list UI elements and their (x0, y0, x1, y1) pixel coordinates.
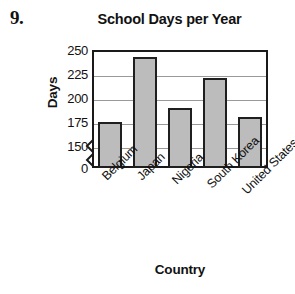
y-tick-label: 225 (44, 68, 88, 81)
y-tick-label: 150 (44, 140, 88, 153)
bar (98, 122, 122, 168)
bars-layer (92, 50, 268, 168)
problem-number: 9. (10, 8, 23, 27)
y-tick-label: 0 (44, 162, 88, 175)
bar (203, 78, 227, 168)
y-tick-label: 250 (44, 44, 88, 57)
bar (168, 108, 192, 168)
bar (133, 57, 157, 168)
y-axis-tick-labels: 2502252001751500 (44, 50, 88, 168)
x-axis-title: Country (92, 262, 268, 277)
y-tick-label: 200 (44, 92, 88, 105)
bar (238, 117, 262, 168)
y-tick-label: 175 (44, 116, 88, 129)
chart-title: School Days per Year (62, 12, 277, 28)
